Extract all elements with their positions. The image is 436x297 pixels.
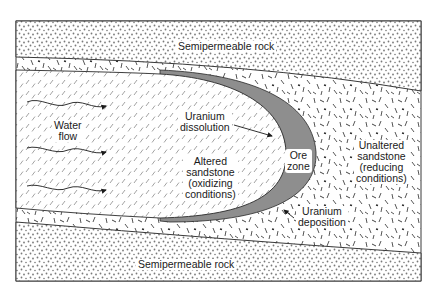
unaltered-line-4: conditions) [356, 173, 407, 184]
top-rock-label: Semipermeable rock [176, 41, 276, 52]
water-flow-label: Water flow [52, 120, 84, 142]
altered-sandstone-label: Altered sandstone (oxidizing conditions) [183, 156, 238, 200]
unaltered-sandstone-label: Unaltered sandstone (reducing conditions… [354, 140, 409, 184]
bottom-rock-label-text: Semipermeable rock [138, 258, 234, 270]
bottom-rock-label: Semipermeable rock [136, 259, 236, 270]
ore-zone-line-2: zone [287, 161, 310, 172]
altered-line-4: conditions) [185, 189, 236, 200]
water-flow-line-2: flow [54, 131, 82, 142]
dissolution-line-2: dissolution [180, 122, 230, 133]
uranium-dissolution-label: Uranium dissolution [178, 111, 232, 133]
top-rock-label-text: Semipermeable rock [178, 40, 274, 52]
deposition-line-2: deposition [298, 217, 346, 228]
uranium-deposition-label: Uranium deposition [296, 206, 348, 228]
ore-zone-label: Ore zone [285, 149, 312, 173]
